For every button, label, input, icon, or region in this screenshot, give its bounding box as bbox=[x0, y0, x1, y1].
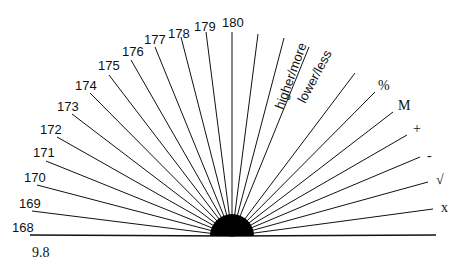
ray-lines bbox=[30, 32, 436, 236]
ray-label: √ bbox=[436, 172, 444, 187]
ray-label: 169 bbox=[19, 196, 41, 211]
ray-label: 175 bbox=[98, 58, 120, 73]
ray-line bbox=[90, 93, 232, 236]
ray-line bbox=[72, 114, 232, 236]
ray-label: M bbox=[398, 98, 411, 113]
ray-line bbox=[37, 185, 232, 236]
radial-diagram: 168169170171172173174175176177178179180h… bbox=[0, 0, 456, 262]
ray-line bbox=[181, 37, 232, 236]
ray-label: 174 bbox=[75, 78, 97, 93]
ray-label: 176 bbox=[122, 44, 144, 59]
ray-label: % bbox=[378, 78, 390, 93]
ray-line bbox=[232, 34, 258, 236]
ray-line bbox=[232, 92, 375, 236]
ray-label: 168 bbox=[12, 220, 34, 235]
ray-label: - bbox=[427, 148, 432, 163]
ray-line bbox=[232, 157, 420, 236]
ray-label: 171 bbox=[33, 145, 55, 160]
ray-line bbox=[131, 60, 232, 236]
ray-line bbox=[232, 235, 436, 236]
ray-label: 178 bbox=[168, 26, 190, 41]
ray-line bbox=[57, 137, 232, 236]
bottom-value-label: 9.8 bbox=[32, 245, 50, 260]
ray-line bbox=[232, 38, 284, 236]
ray-label: x bbox=[441, 200, 448, 215]
ray-line bbox=[232, 73, 355, 236]
ray-label: 170 bbox=[24, 170, 46, 185]
ray-label: 180 bbox=[222, 15, 244, 30]
semicircle-hub bbox=[210, 214, 254, 236]
ray-label: 172 bbox=[40, 122, 62, 137]
ray-label: 173 bbox=[57, 99, 79, 114]
ray-line bbox=[109, 75, 232, 236]
ray-labels: 168169170171172173174175176177178179180h… bbox=[12, 15, 448, 235]
ray-line bbox=[232, 182, 428, 236]
ray-line bbox=[232, 135, 407, 236]
ray-label: 177 bbox=[144, 32, 166, 47]
ray-label: 179 bbox=[194, 19, 216, 34]
ray-label: + bbox=[413, 121, 421, 136]
ray-line bbox=[30, 235, 232, 236]
